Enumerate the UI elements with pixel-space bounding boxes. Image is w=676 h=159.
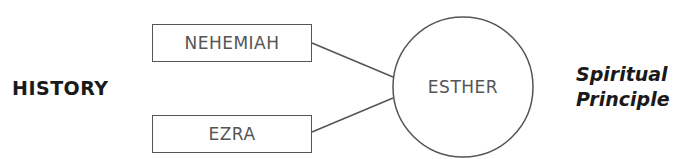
spiritual-text: Spiritual <box>576 62 670 87</box>
nehemiah-label: NEHEMIAH <box>184 33 279 53</box>
ezra-box: EZRA <box>152 115 312 153</box>
nehemiah-box: NEHEMIAH <box>152 24 312 62</box>
diagram: HISTORY NEHEMIAH EZRA ESTHER Spiritual P… <box>0 0 676 159</box>
history-label: HISTORY <box>12 77 109 99</box>
spiritual-principle-label: Spiritual Principle <box>576 62 670 112</box>
principle-text: Principle <box>576 87 670 112</box>
connector-ezra-esther <box>312 98 393 132</box>
esther-label: ESTHER <box>413 77 513 97</box>
connector-nehemiah-esther <box>312 43 393 77</box>
ezra-label: EZRA <box>208 124 255 144</box>
